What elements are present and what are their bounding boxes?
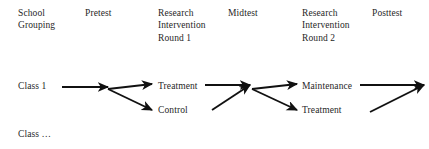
pretest-label: Pretest: [85, 7, 112, 19]
control-round1-label: Control: [158, 104, 188, 116]
research-intervention-round-1-label: Research Intervention Round 1: [158, 7, 206, 44]
research-intervention-round-2-label: Research Intervention Round 2: [302, 7, 350, 44]
arrow-split1-to-treatment-round1: [108, 84, 152, 89]
arrow-split1-to-control-round1: [108, 89, 152, 110]
midtest-label: Midtest: [228, 7, 258, 19]
treatment-round2-label: Treatment: [302, 104, 342, 116]
arrow-layer: [0, 0, 429, 149]
class-ellipsis-label: Class …: [18, 128, 51, 140]
arrow-treatment-round2-to-posttest: [370, 85, 424, 112]
arrow-merge-to-treatment-round2: [252, 89, 297, 110]
arrow-merge-to-maintenance: [252, 84, 297, 89]
class-1-label: Class 1: [18, 80, 46, 92]
posttest-label: Posttest: [372, 7, 402, 19]
research-design-flow-diagram: School GroupingPretestResearch Intervent…: [0, 0, 429, 149]
treatment-round1-label: Treatment: [158, 80, 198, 92]
school-grouping-label: School Grouping: [18, 7, 55, 32]
maintenance-label: Maintenance: [302, 80, 352, 92]
arrow-control-round1-to-merge: [212, 85, 250, 110]
